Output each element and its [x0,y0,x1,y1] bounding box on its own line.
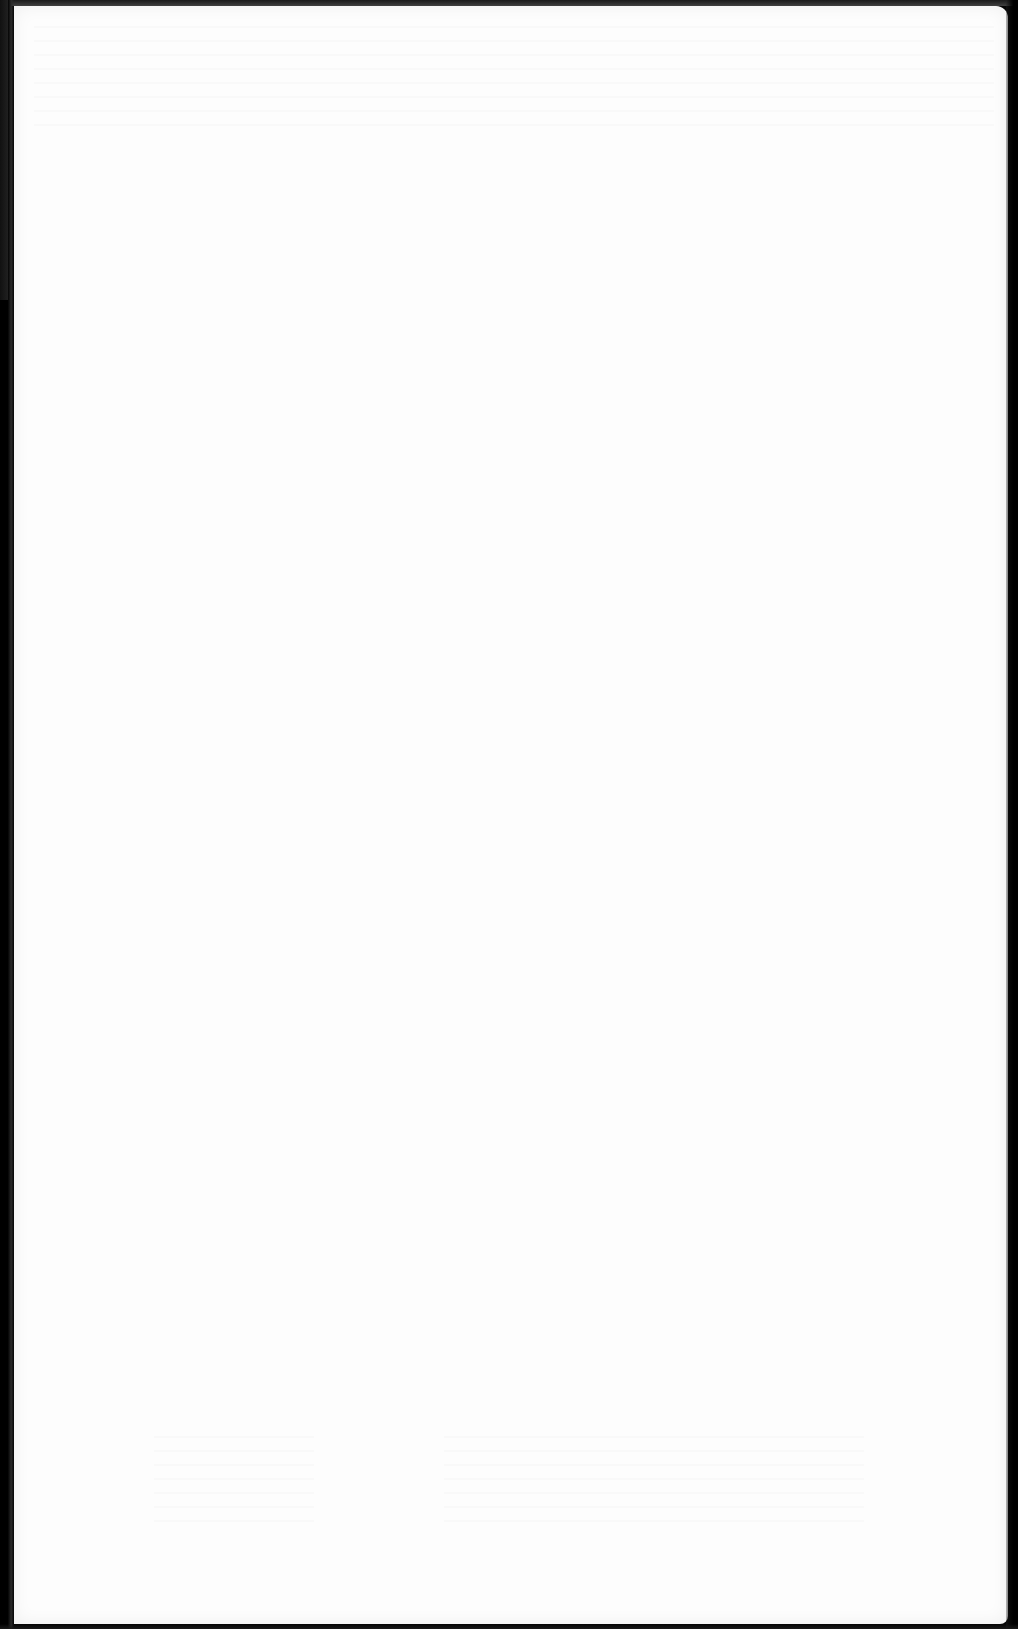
scanner-border-right [1006,0,1018,1629]
scanner-border-bottom [0,1624,1018,1629]
scanned-document [0,0,1018,1629]
scanner-border-top [0,0,1018,6]
show-through-texture [444,1436,864,1526]
blank-paper-page [14,6,1008,1624]
show-through-texture [154,1436,314,1526]
scanner-border-left-ragged [0,0,8,300]
show-through-texture [34,26,994,136]
